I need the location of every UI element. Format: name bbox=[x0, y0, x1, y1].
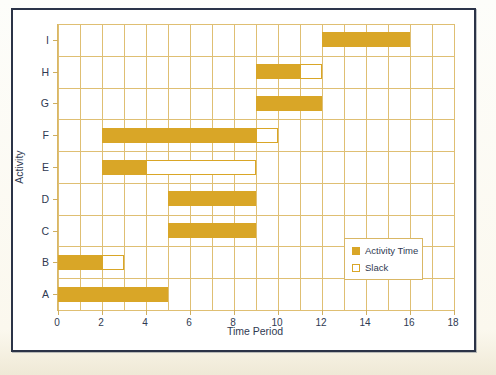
gridline-horizontal bbox=[58, 24, 454, 25]
gantt-bar-activity bbox=[58, 255, 102, 270]
x-axis-tick bbox=[102, 310, 103, 315]
gantt-chart: 024681012141618 ABCDEFGHI Time Period Ac… bbox=[13, 10, 474, 350]
x-axis-tick bbox=[410, 310, 411, 315]
x-axis-tick bbox=[146, 310, 147, 315]
y-axis-tick-label: I bbox=[46, 34, 49, 46]
x-axis-tick bbox=[454, 310, 455, 315]
x-axis-title: Time Period bbox=[57, 325, 453, 337]
legend-swatch-activity-time-icon bbox=[352, 247, 360, 255]
gantt-bar-activity bbox=[256, 96, 322, 111]
gridline-vertical bbox=[322, 24, 323, 310]
y-axis-tick bbox=[53, 72, 58, 73]
gantt-bar-activity bbox=[102, 160, 146, 175]
gridline-horizontal bbox=[58, 310, 454, 311]
y-axis-tick bbox=[53, 135, 58, 136]
x-axis-tick bbox=[234, 310, 235, 315]
y-axis-tick bbox=[53, 40, 58, 41]
gantt-bar-activity bbox=[168, 223, 256, 238]
y-axis-tick-label: H bbox=[41, 66, 49, 78]
gridline-horizontal bbox=[58, 215, 454, 216]
x-axis-tick bbox=[278, 310, 279, 315]
y-axis-tick-label: F bbox=[43, 129, 49, 141]
gantt-bar-activity bbox=[322, 32, 410, 47]
gantt-bar-slack bbox=[256, 128, 278, 143]
y-axis-tick bbox=[53, 167, 58, 168]
gridline-vertical bbox=[454, 24, 455, 310]
legend-label-activity-time: Activity Time bbox=[365, 245, 418, 256]
gridline-horizontal bbox=[58, 151, 454, 152]
gridline-horizontal bbox=[58, 88, 454, 89]
x-axis-tick bbox=[322, 310, 323, 315]
legend-label-slack: Slack bbox=[365, 262, 388, 273]
y-axis-tick bbox=[53, 231, 58, 232]
x-axis-tick bbox=[366, 310, 367, 315]
legend-item-activity-time: Activity Time bbox=[352, 245, 422, 256]
y-axis-tick-label: D bbox=[41, 193, 49, 205]
gridline-horizontal bbox=[58, 183, 454, 184]
gantt-bar-activity bbox=[256, 64, 300, 79]
gantt-bar-activity bbox=[102, 128, 256, 143]
y-axis-title: Activity bbox=[13, 150, 25, 183]
gantt-bar-activity bbox=[58, 287, 168, 302]
gantt-bar-slack bbox=[102, 255, 124, 270]
y-axis-tick-label: E bbox=[42, 161, 49, 173]
gridline-horizontal bbox=[58, 119, 454, 120]
y-axis-tick bbox=[53, 103, 58, 104]
scanned-page-background: 024681012141618 ABCDEFGHI Time Period Ac… bbox=[0, 0, 496, 375]
y-axis-tick-label: B bbox=[42, 256, 49, 268]
chart-legend: Activity Time Slack bbox=[344, 238, 423, 280]
gridline-horizontal bbox=[58, 56, 454, 57]
gantt-bar-activity bbox=[168, 191, 256, 206]
legend-swatch-slack-icon bbox=[352, 264, 360, 272]
x-axis-tick bbox=[58, 310, 59, 315]
chart-figure-frame: 024681012141618 ABCDEFGHI Time Period Ac… bbox=[11, 8, 476, 352]
y-axis-tick bbox=[53, 199, 58, 200]
x-axis-tick bbox=[190, 310, 191, 315]
y-axis-tick-label: A bbox=[42, 288, 49, 300]
legend-item-slack: Slack bbox=[352, 262, 422, 273]
gridline-vertical bbox=[432, 24, 433, 310]
y-axis-tick-label: G bbox=[41, 97, 49, 109]
gantt-bar-slack bbox=[146, 160, 256, 175]
y-axis-tick-label: C bbox=[41, 225, 49, 237]
gantt-bar-slack bbox=[300, 64, 322, 79]
